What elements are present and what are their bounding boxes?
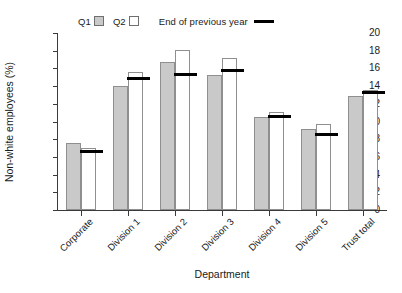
y-axis-tick	[53, 210, 57, 211]
x-axis-tick	[269, 211, 270, 216]
legend-entry-q1: Q1	[78, 16, 104, 27]
bar-chart-figure: Q1 Q2 End of previous year Non-white emp…	[0, 0, 402, 293]
legend-swatch-q1-icon	[94, 16, 104, 26]
previous-year-marker	[268, 115, 291, 118]
y-axis-tick	[53, 122, 57, 123]
bar-group	[301, 33, 331, 210]
x-axis-category-label: Division 2	[152, 216, 189, 253]
bar-q1	[207, 75, 222, 210]
previous-year-marker	[174, 73, 197, 76]
x-axis-category-label: Corporate	[57, 216, 95, 254]
legend-label-q2: Q2	[113, 16, 126, 27]
bar-q2	[316, 124, 331, 210]
bar-q2	[222, 58, 237, 210]
y-axis-tick	[53, 192, 57, 193]
bar-q2	[81, 148, 96, 210]
bar-q1	[66, 143, 81, 210]
previous-year-marker	[221, 69, 244, 72]
bar-group	[348, 33, 378, 210]
bar-q2	[128, 72, 143, 210]
bar-group	[160, 33, 190, 210]
bar-q1	[301, 129, 316, 210]
y-axis-tick	[53, 51, 57, 52]
y-axis-tick	[53, 68, 57, 69]
previous-year-marker	[127, 77, 150, 80]
bar-group	[113, 33, 143, 210]
legend-label-previous-year: End of previous year	[159, 16, 248, 27]
bar-q2	[269, 112, 284, 210]
y-axis-tick	[53, 86, 57, 87]
y-axis-tick	[53, 33, 57, 34]
x-axis-tick	[316, 211, 317, 216]
x-axis-tick	[363, 211, 364, 216]
bar-group	[207, 33, 237, 210]
previous-year-marker	[362, 91, 385, 94]
bar-q1	[254, 117, 269, 210]
bar-q1	[160, 62, 175, 210]
y-axis-tick	[53, 157, 57, 158]
legend-label-q1: Q1	[78, 16, 91, 27]
legend-entry-q2: Q2	[113, 16, 139, 27]
x-axis-category-label: Division 1	[105, 216, 142, 253]
previous-year-marker	[80, 150, 103, 153]
chart-legend: Q1 Q2 End of previous year	[78, 13, 274, 29]
bar-q1	[113, 86, 128, 210]
x-axis-category-label: Division 4	[246, 216, 283, 253]
legend-entry-previous-year: End of previous year	[159, 16, 274, 27]
plot-area: 02468101214161820	[57, 33, 387, 211]
x-axis-tick	[222, 211, 223, 216]
x-axis-tick	[128, 211, 129, 216]
bar-group	[66, 33, 96, 210]
legend-line-previous-year-icon	[254, 20, 274, 23]
x-axis-tick	[81, 211, 82, 216]
legend-swatch-q2-icon	[129, 16, 139, 26]
y-axis-tick	[53, 104, 57, 105]
y-axis-tick	[53, 175, 57, 176]
bar-q1	[348, 96, 363, 210]
x-axis-category-label: Division 3	[199, 216, 236, 253]
x-axis-tick	[175, 211, 176, 216]
x-axis-title: Department	[57, 268, 387, 280]
x-axis-category-label: Division 5	[293, 216, 330, 253]
y-axis-line	[57, 33, 58, 211]
y-axis-title: Non-white employees (%)	[2, 33, 16, 211]
bar-q2	[363, 90, 378, 210]
previous-year-marker	[315, 133, 338, 136]
y-axis-tick	[53, 139, 57, 140]
bar-group	[254, 33, 284, 210]
x-axis-category-label: Trust total	[340, 216, 377, 253]
